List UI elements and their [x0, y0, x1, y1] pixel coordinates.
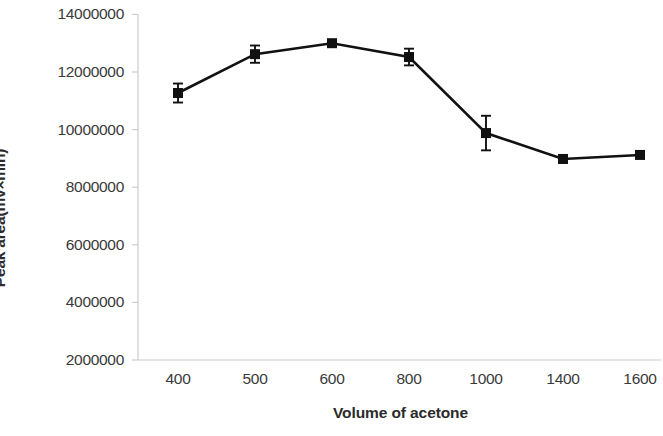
data-point-marker	[404, 52, 414, 62]
x-axis-title: Volume of acetone	[138, 404, 663, 422]
data-point-marker	[481, 128, 491, 138]
data-point-marker	[558, 154, 568, 164]
data-series	[173, 38, 645, 164]
data-point-marker	[327, 38, 337, 48]
axes	[132, 14, 661, 360]
plot-area	[0, 0, 663, 436]
data-point-marker	[635, 150, 645, 160]
data-point-marker	[250, 49, 260, 59]
chart-container: Peak area(mv×min) 2000000400000060000008…	[0, 0, 663, 436]
data-point-marker	[173, 88, 183, 98]
